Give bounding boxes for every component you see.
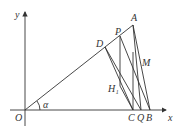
label-H1: H₁ — [107, 83, 119, 94]
label-O: O — [15, 112, 22, 123]
label-alpha: α — [43, 99, 49, 110]
line-H1C — [120, 86, 133, 110]
label-C: C — [128, 112, 135, 123]
line-DC — [105, 47, 133, 110]
angle-arc — [37, 101, 40, 110]
label-M: M — [141, 57, 151, 68]
label-A: A — [130, 12, 138, 23]
label-y: y — [14, 9, 20, 20]
geometry-diagram: y x O α A P D M H₁ C Q B — [0, 0, 179, 135]
label-x: x — [167, 112, 173, 123]
label-P: P — [114, 26, 121, 37]
diagram-canvas: y x O α A P D M H₁ C Q B — [0, 0, 179, 135]
label-B: B — [146, 112, 152, 123]
label-D: D — [95, 38, 104, 49]
label-Q: Q — [137, 112, 145, 123]
